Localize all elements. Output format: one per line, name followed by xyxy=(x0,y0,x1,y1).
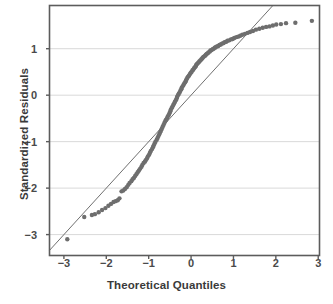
x-tick-label: −2 xyxy=(100,257,113,269)
y-axis-title: Standardized Residuals xyxy=(18,11,30,257)
x-tick-label: −3 xyxy=(58,257,71,269)
data-point xyxy=(117,196,121,200)
x-tick-label: 3 xyxy=(315,257,321,269)
x-axis-title: Theoretical Quantiles xyxy=(0,279,333,291)
plot-background xyxy=(50,6,320,256)
data-point xyxy=(310,19,314,23)
data-point xyxy=(284,21,288,25)
qq-plot-canvas xyxy=(0,0,333,304)
x-tick-label: −1 xyxy=(142,257,155,269)
data-point xyxy=(279,22,283,26)
data-point xyxy=(65,237,69,241)
data-point xyxy=(82,215,86,219)
x-tick-label: 2 xyxy=(273,257,279,269)
data-point xyxy=(274,22,278,26)
x-tick-label: 1 xyxy=(230,257,236,269)
qq-plot-figure: −3−2−10123 10−1−2−3 Theoretical Quantile… xyxy=(0,0,333,304)
x-tick-label: 0 xyxy=(188,257,194,269)
data-point xyxy=(93,212,97,216)
data-point xyxy=(293,20,297,24)
